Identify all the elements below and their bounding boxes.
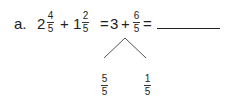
denominator: 5 [145, 87, 151, 97]
numerator: 1 [145, 74, 151, 84]
denominator: 5 [102, 87, 108, 97]
bond-right-fraction: 1 5 [144, 74, 151, 97]
number-bond-lines [0, 0, 232, 101]
bond-left-fraction: 5 5 [101, 74, 108, 97]
numerator: 5 [102, 74, 108, 84]
